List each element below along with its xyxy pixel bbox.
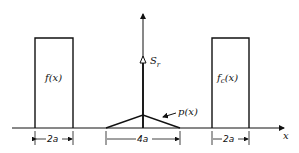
- left-dimension: 2a: [35, 131, 73, 145]
- triangle-label: p(x): [178, 106, 198, 117]
- center-width-label: 4a: [137, 134, 148, 144]
- triangle-p: p(x): [106, 106, 198, 128]
- center-dimension: 4a: [106, 131, 180, 145]
- vertical-marker-label: Sr: [150, 55, 161, 69]
- left-width-label: 2a: [47, 134, 58, 144]
- diagram-canvas: x f(x) Sr p(x) fc(x) 2a 4a: [0, 0, 299, 153]
- open-arrow-icon: [140, 56, 146, 63]
- right-box-label: fc(x): [216, 72, 238, 85]
- vertical-marker: Sr: [140, 14, 161, 128]
- left-box-f: f(x): [35, 38, 73, 128]
- right-width-label: 2a: [223, 134, 234, 144]
- left-box-label: f(x): [44, 72, 62, 83]
- x-axis-label: x: [283, 130, 289, 141]
- right-box-fc: fc(x): [212, 38, 249, 128]
- right-dimension: 2a: [212, 131, 249, 145]
